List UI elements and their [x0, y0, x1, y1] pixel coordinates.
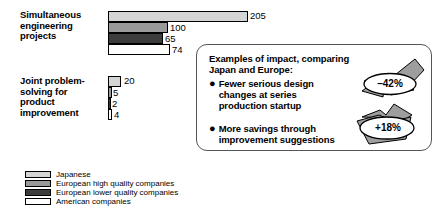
legend-swatch-icon: [25, 171, 51, 178]
bar-chart-figure: Simultaneous engineering projects 205 10…: [0, 0, 437, 213]
legend-swatch-icon: [25, 189, 51, 196]
bar-joint-european-low: [108, 98, 111, 109]
impact-badge-value: –42%: [353, 78, 427, 90]
impact-badge-minus-42: –42%: [353, 57, 427, 102]
bullet-text: Fewer serious design changes at series p…: [219, 78, 314, 111]
legend-swatch-icon: [25, 180, 51, 187]
impact-badge-plus-18: +18%: [349, 101, 427, 148]
bar-joint-american: [108, 109, 112, 120]
legend-label: Japanese: [56, 170, 91, 179]
bullet-text-line: More savings through: [219, 123, 316, 134]
bar-value-joint-american: 4: [114, 110, 119, 120]
legend-swatch-icon: [25, 198, 51, 205]
bullet-dot-icon: ●: [209, 78, 216, 89]
chart-legend: Japanese European high quality companies…: [25, 170, 178, 206]
callout-bullet-savings: ● More savings through improvement sugge…: [209, 123, 369, 145]
bullet-text-line: improvement suggestions: [219, 134, 335, 145]
legend-label: European lower quality companies: [56, 188, 178, 197]
impact-callout-box: Examples of impact, comparing Japan and …: [196, 44, 432, 151]
impact-badge-value: +18%: [349, 122, 427, 134]
bullet-dot-icon: ●: [209, 123, 216, 134]
bar-value-joint-european-low: 2: [112, 99, 117, 109]
bullet-text-line: Fewer serious design: [219, 78, 314, 89]
legend-item-japanese: Japanese: [25, 170, 178, 179]
legend-item-european-lower-quality: European lower quality companies: [25, 188, 178, 197]
bar-joint-japanese: [108, 76, 121, 87]
callout-bullet-design-changes: ● Fewer serious design changes at series…: [209, 78, 359, 111]
legend-label: American companies: [56, 197, 131, 206]
bullet-text-line: changes at series: [219, 89, 297, 100]
legend-item-american: American companies: [25, 197, 178, 206]
bullet-text: More savings through improvement suggest…: [219, 123, 335, 145]
legend-label: European high quality companies: [56, 179, 174, 188]
legend-item-european-high-quality: European high quality companies: [25, 179, 178, 188]
bullet-text-line: production startup: [219, 100, 302, 111]
bar-value-joint-japanese: 20: [124, 76, 135, 86]
bar-joint-european-high: [108, 87, 112, 98]
bar-value-joint-european-high: 5: [113, 88, 118, 98]
